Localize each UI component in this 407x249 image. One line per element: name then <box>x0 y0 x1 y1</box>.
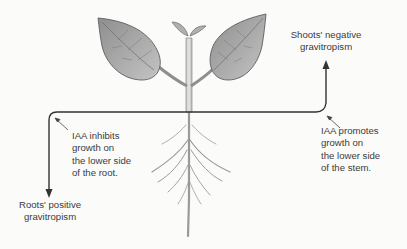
label-line: the lower side <box>321 150 380 162</box>
label-line: Roots' positive <box>8 199 92 211</box>
arrow-down-icon <box>46 189 53 198</box>
roots <box>152 112 230 236</box>
label-line: the lower side <box>72 155 131 167</box>
label-line: IAA inhibits <box>72 130 131 142</box>
label-line: IAA promotes <box>321 125 380 137</box>
label-line: growth on <box>321 137 380 149</box>
label-line: growth on <box>72 142 131 154</box>
plant-illustration <box>98 14 266 236</box>
label-line: Shoots' negative <box>280 29 372 41</box>
label-line: gravitropism <box>8 211 92 223</box>
label-line: of the stem. <box>321 162 380 174</box>
stem <box>186 38 192 112</box>
label-line: gravitropism <box>280 41 372 53</box>
label-line: of the root. <box>72 167 131 179</box>
apical-bud <box>172 22 206 36</box>
roots-positive-gravitropism-label: Roots' positive gravitropism <box>8 199 92 224</box>
shoots-negative-gravitropism-label: Shoots' negative gravitropism <box>280 29 372 54</box>
iaa-promotes-stem-label: IAA promotes growth on the lower side of… <box>321 125 380 175</box>
arrow-up-icon <box>323 60 330 69</box>
iaa-inhibits-root-label: IAA inhibits growth on the lower side of… <box>72 130 131 180</box>
